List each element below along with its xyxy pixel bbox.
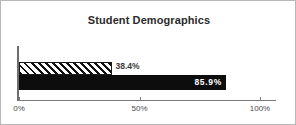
x-axis-line [17,100,276,101]
x-axis-tick-label-50: 50% [131,104,147,113]
bar-label-series-1: 38.4% [116,61,140,71]
x-axis-tick-label-100: 100% [250,104,270,113]
x-axis-tick-0 [19,97,20,101]
chart-container: Student Demographics 38.4% 85.9% 0% 50% … [0,0,296,125]
x-axis-tick-50 [140,97,141,101]
bar-label-series-2: 85.9% [194,77,222,87]
bar-series-1 [19,62,112,75]
x-axis-tick-100 [260,97,261,101]
x-axis-tick-label-0: 0% [13,104,25,113]
chart-title: Student Demographics [1,14,296,26]
plot-area: 38.4% 85.9% 0% 50% 100% [17,46,276,101]
